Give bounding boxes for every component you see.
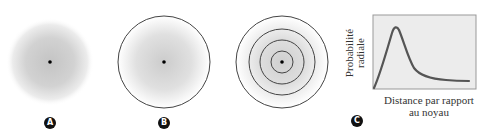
x-axis-label-line1: Distance par rapport (374, 94, 484, 106)
x-axis-label: Distance par rapport au noyau (374, 94, 484, 118)
radial-probability-graph (373, 15, 476, 89)
panel-a-cloud (6, 18, 94, 106)
panel-label-c: C (351, 115, 363, 127)
x-axis-label-line2: au noyau (374, 106, 484, 118)
panel-c-shells (236, 16, 328, 108)
nucleus-dot-c (280, 60, 284, 64)
panel-label-a: A (44, 117, 56, 129)
nucleus-dot-b (162, 60, 166, 64)
atomic-orbital-figure: Probabilité radiale Distance par rapport… (0, 0, 490, 137)
panel-b-cloud (118, 16, 210, 108)
nucleus-dot-a (48, 60, 52, 64)
y-axis-label: Probabilité radiale (338, 14, 372, 92)
panel-label-b: B (158, 117, 170, 129)
y-axis-label-line2: radiale (355, 29, 366, 77)
